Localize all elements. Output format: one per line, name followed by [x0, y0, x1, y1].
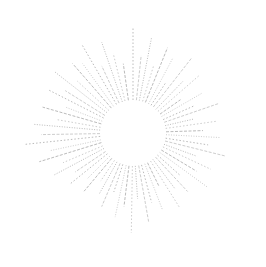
- sunburst-ray: [166, 138, 209, 145]
- sunburst-ray: [153, 57, 192, 107]
- sunburst-ray: [102, 163, 120, 206]
- sunburst-ray: [160, 152, 208, 187]
- sunburst-ray: [164, 104, 218, 123]
- sunburst-ray: [54, 149, 104, 176]
- sunburst-ray: [142, 165, 152, 203]
- sunburst-ray: [131, 166, 132, 233]
- sunburst-ray: [48, 89, 104, 118]
- sunburst-ray: [69, 154, 107, 185]
- sunburst-ray: [145, 164, 163, 210]
- sunburst-ray: [162, 93, 203, 117]
- sunburst-ray: [165, 141, 225, 156]
- sunburst-ray: [139, 166, 149, 222]
- sunburst-ray: [148, 163, 160, 187]
- sunburst-ray: [166, 131, 203, 132]
- sunburst-ray: [26, 136, 101, 144]
- sunburst-ray: [51, 140, 101, 151]
- sunburst-ray: [166, 121, 217, 128]
- sunburst-ray: [41, 134, 100, 135]
- sunburst-ray: [77, 81, 109, 110]
- sunburst-ray: [123, 64, 128, 101]
- sunburst-ray: [39, 143, 101, 162]
- sunburst-ray: [115, 165, 126, 217]
- sunburst-ray: [164, 144, 197, 156]
- sunburst-ray: [136, 55, 141, 100]
- sunburst-ray: [124, 166, 129, 207]
- sunburst-rays: [26, 28, 226, 233]
- sunburst-ray: [158, 75, 200, 111]
- sunburst-ray: [56, 120, 100, 128]
- sunburst-ray: [135, 166, 137, 199]
- sunburst-ray: [156, 81, 183, 109]
- sunburst-ray: [156, 157, 188, 191]
- sunburst-ray: [163, 147, 211, 169]
- sunburst-ray: [166, 135, 221, 138]
- sunburst-illustration: [0, 0, 266, 267]
- sunburst-ray: [43, 107, 102, 124]
- sunburst-ray: [161, 150, 196, 171]
- sunburst-ray: [158, 155, 181, 176]
- sunburst-ray: [82, 45, 117, 105]
